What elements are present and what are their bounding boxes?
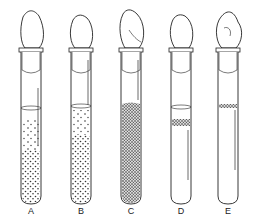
tube-label-a: A: [21, 206, 41, 216]
tube-c: [119, 10, 144, 204]
test-tube-figure: [0, 0, 254, 223]
tube-e: [216, 12, 242, 204]
tube-label-d: D: [171, 206, 191, 216]
tube-label-e: E: [218, 206, 238, 216]
tube-label-b: B: [71, 206, 91, 216]
tube-label-c: C: [121, 206, 141, 216]
tube-d: [169, 15, 193, 204]
tube-b: [69, 15, 93, 204]
tube-a: [19, 11, 44, 204]
